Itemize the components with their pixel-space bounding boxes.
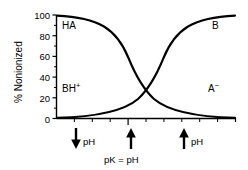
curve-label-bh-plus: BH+ <box>62 84 80 94</box>
ytick-label-20: 20 <box>28 94 50 104</box>
ytick-label-40: 40 <box>28 73 50 83</box>
y-axis-title: % Nonionized <box>14 41 24 103</box>
ionization-curve-figure: 100 80 60 40 20 0 % Nonionized HA B BH+ … <box>0 0 248 170</box>
arrow-label-ph-left: pH <box>83 137 95 147</box>
curve-ha <box>57 16 235 118</box>
curve-b <box>57 16 235 118</box>
ytick-label-80: 80 <box>28 32 50 42</box>
arrow-ph-above-pk <box>179 128 189 149</box>
ytick-label-0: 0 <box>28 115 50 125</box>
curve-label-bh-superscript: + <box>76 81 80 90</box>
curve-label-ha: HA <box>62 21 76 31</box>
curve-label-b: B <box>212 21 219 31</box>
ytick-label-100: 100 <box>28 11 50 21</box>
curve-label-a-base: A <box>208 83 215 94</box>
arrow-ph-below-pk <box>71 128 81 149</box>
arrow-label-ph-right: pH <box>191 137 203 147</box>
curve-label-bh-base: BH <box>62 83 76 94</box>
curve-label-a-minus: A− <box>208 84 219 94</box>
arrow-ph-equals-pk <box>126 128 136 149</box>
ytick-label-60: 60 <box>28 52 50 62</box>
curve-label-a-superscript: − <box>215 81 219 90</box>
pk-equals-ph-label: pK = pH <box>104 155 139 165</box>
